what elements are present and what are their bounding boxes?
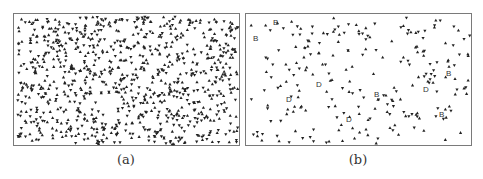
marker-down-icon [149,30,152,33]
marker-up-icon [302,56,305,59]
marker-up-icon [51,133,54,136]
marker-down-icon [192,90,195,93]
marker-up-icon [119,51,122,54]
marker-down-icon [222,20,225,23]
marker-down-icon [119,80,122,83]
marker-down-icon [325,142,328,145]
marker-up-icon [422,129,425,132]
marker-down-icon [109,61,112,64]
marker-down-icon [276,87,279,90]
marker-down-icon [175,96,178,99]
marker-up-icon [163,99,166,102]
panel-a [13,13,240,146]
marker-down-icon [132,100,135,103]
marker-down-icon [366,35,369,38]
marker-down-icon [97,57,100,60]
marker-down-icon [203,117,206,120]
marker-up-icon [165,45,168,48]
marker-up-icon [117,109,120,112]
marker-down-icon [311,26,314,29]
marker-down-icon [250,98,253,101]
marker-up-icon [48,83,51,86]
marker-up-icon [186,49,189,52]
marker-down-icon [263,89,266,92]
marker-up-icon [229,56,232,59]
marker-up-icon [36,61,39,64]
marker-up-icon [390,40,393,43]
marker-up-icon [58,20,61,23]
marker-down-icon [36,122,39,125]
marker-up-icon [209,119,212,122]
marker-up-icon [99,23,102,26]
marker-down-icon [298,33,301,36]
marker-up-icon [293,105,296,108]
marker-down-icon [178,92,181,95]
marker-down-icon [69,89,72,92]
marker-down-icon [186,44,189,47]
marker-up-icon [168,86,171,89]
marker-up-icon [115,29,118,32]
marker-up-icon [209,107,212,110]
marker-up-icon [179,96,182,99]
marker-up-icon [234,115,237,118]
marker-up-icon [130,136,133,139]
marker-down-icon [29,115,32,118]
marker-up-icon [191,61,194,64]
marker-up-icon [86,119,89,122]
marker-down-icon [432,69,435,72]
marker-down-icon [292,74,295,77]
marker-down-icon [205,138,208,141]
marker-up-icon [62,25,65,28]
marker-up-icon [364,128,367,131]
panel-b: BBDDBDDBB [245,13,472,146]
marker-down-icon [61,45,64,48]
marker-down-icon [90,33,93,36]
marker-up-icon [39,131,42,134]
marker-up-icon [108,65,111,68]
marker-down-icon [74,42,77,45]
marker-up-icon [35,41,38,44]
marker-up-icon [192,47,195,50]
marker-up-icon [146,62,149,65]
marker-up-icon [233,86,236,89]
marker-up-icon [290,20,293,23]
marker-up-icon [201,138,204,141]
marker-up-icon [322,31,325,34]
marker-up-icon [186,114,189,117]
marker-down-icon [215,76,218,79]
marker-up-icon [46,121,49,124]
marker-down-icon [374,49,377,52]
scatter-field-a [14,14,241,147]
marker-up-icon [459,131,462,134]
marker-up-icon [76,37,79,40]
marker-down-icon [186,99,189,102]
marker-down-icon [180,127,183,130]
marker-up-icon [169,24,172,27]
marker-up-icon [95,131,98,134]
marker-down-icon [137,92,140,95]
marker-up-icon [164,82,167,85]
marker-down-icon [89,39,92,42]
scatter-field-b: BBDDBDDBB [246,14,473,147]
marker-up-icon [119,77,122,80]
marker-up-icon [64,41,67,44]
marker-down-icon [159,123,162,126]
marker-down-icon [357,33,360,36]
marker-down-icon [79,17,82,20]
marker-up-icon [79,50,82,53]
marker-up-icon [38,83,41,86]
marker-up-icon [23,82,26,85]
marker-down-icon [298,67,301,70]
marker-up-icon [163,93,166,96]
marker-down-icon [83,30,86,33]
marker-up-icon [95,127,98,130]
marker-up-icon [218,43,221,46]
marker-up-icon [171,40,174,43]
marker-down-icon [94,54,97,57]
marker-up-icon [278,139,281,142]
marker-up-icon [348,80,351,83]
marker-down-icon [88,45,91,48]
marker-down-icon [20,127,23,130]
marker-down-icon [222,47,225,50]
marker-down-icon [158,111,161,114]
